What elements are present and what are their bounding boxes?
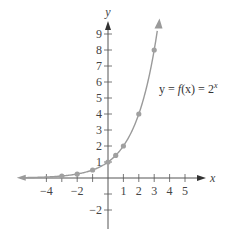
y-tick-label: 6 [96, 75, 102, 89]
ticks [46, 34, 185, 210]
data-point [90, 167, 95, 172]
function-label: y = f(x) = 2x [159, 81, 218, 96]
x-tick-label: −2 [71, 184, 84, 198]
labels: −4−212345123456789−2xyy = f(x) = 2x [40, 5, 218, 217]
y-tick-label: 5 [96, 91, 102, 105]
data-point [105, 159, 110, 164]
x-tick-label: 3 [151, 184, 157, 198]
data-point [121, 143, 126, 148]
data-point [113, 153, 118, 158]
x-tick-label: 5 [182, 184, 188, 198]
curve-left-arrow-icon [17, 175, 26, 181]
exponential-chart: −4−212345123456789−2xyy = f(x) = 2x [0, 0, 229, 244]
y-tick-label: 2 [96, 139, 102, 153]
y-tick-label: 7 [96, 59, 102, 73]
x-tick-label: −4 [40, 184, 53, 198]
y-tick-label: 9 [96, 27, 102, 41]
x-tick-label: 4 [167, 184, 173, 198]
y-tick-label: 1 [96, 155, 102, 169]
data-point [152, 47, 157, 52]
curve [17, 19, 163, 181]
y-tick-label: 4 [96, 107, 102, 121]
x-tick-label: 2 [136, 184, 142, 198]
x-axis-label: x [209, 171, 216, 185]
y-axis-label: y [104, 5, 111, 19]
x-axis-arrow-icon [197, 175, 206, 181]
y-tick-label: 8 [96, 43, 102, 57]
data-point [59, 173, 64, 178]
data-point [136, 111, 141, 116]
y-axis-arrow-icon [105, 21, 111, 30]
data-point [75, 171, 80, 176]
curve-line [22, 31, 158, 178]
y-tick-label: 3 [96, 123, 102, 137]
y-tick-label: −2 [89, 203, 102, 217]
curve-top-arrow-icon [155, 19, 163, 29]
x-tick-label: 1 [120, 184, 126, 198]
